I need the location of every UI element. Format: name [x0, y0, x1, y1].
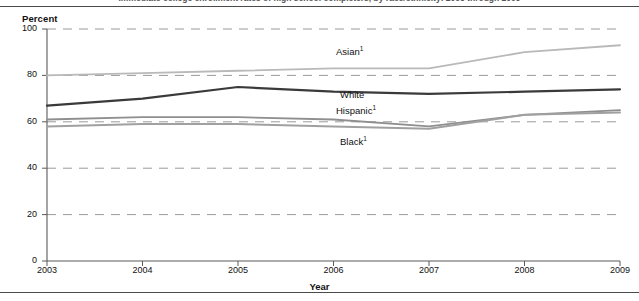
series-label-white: White [340, 90, 364, 100]
chart-figure: Immediate college enrollment rates of hi… [0, 0, 639, 301]
series-line-asian [47, 45, 620, 75]
series-label-footnote-marker: 1 [372, 104, 376, 111]
y-axis-tick-marks [42, 29, 47, 261]
series-line-black [47, 113, 620, 129]
series-label-black: Black1 [340, 137, 367, 147]
plot-area [0, 0, 639, 301]
gridlines [47, 29, 620, 215]
series-line-white [47, 87, 620, 106]
series-lines [47, 45, 620, 129]
series-label-asian: Asian1 [336, 47, 363, 57]
series-label-footnote-marker: 1 [363, 135, 367, 142]
series-label-hispanic: Hispanic1 [336, 106, 376, 116]
x-axis-tick-marks [47, 261, 620, 266]
series-label-footnote-marker: 1 [360, 45, 364, 52]
